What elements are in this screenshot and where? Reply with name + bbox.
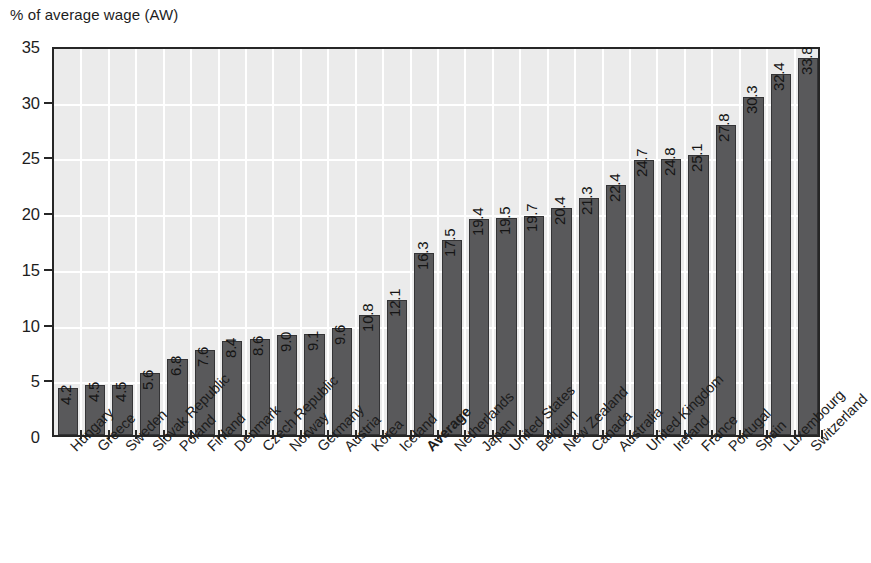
x-axis-tick-mark: [519, 430, 521, 439]
gridline-vertical: [272, 49, 274, 435]
x-axis-tick-mark: [382, 430, 384, 439]
bar-value-label: 21.3: [578, 186, 595, 214]
gridline-vertical: [80, 49, 82, 435]
bar[interactable]: [634, 160, 654, 435]
bar-value-label: 8.4: [222, 338, 239, 358]
bar-value-label: 25.1: [688, 144, 705, 172]
x-axis-tick-mark: [711, 430, 713, 439]
bar-value-label: 19.4: [469, 207, 486, 235]
gridline-vertical: [163, 49, 165, 435]
gridline-vertical: [300, 49, 302, 435]
x-axis-tick-mark: [245, 430, 247, 439]
bar[interactable]: [359, 315, 379, 435]
x-axis-tick-mark: [547, 430, 549, 439]
bar-value-label: 22.4: [606, 174, 623, 202]
y-axis-tick-label: 0: [0, 428, 40, 447]
y-axis-tick-mark: [44, 213, 52, 215]
y-axis-tick-mark: [44, 102, 52, 104]
plot-area: 4.24.54.55.66.87.68.48.69.09.19.610.812.…: [52, 47, 820, 437]
bar[interactable]: [716, 125, 736, 435]
gridline-vertical: [821, 49, 823, 435]
bar[interactable]: [798, 58, 818, 435]
y-axis-tick-label: 15: [0, 260, 40, 279]
gridline-vertical: [656, 49, 658, 435]
gridline-vertical: [547, 49, 549, 435]
bar-value-label: 19.5: [496, 206, 513, 234]
gridline-vertical: [355, 49, 357, 435]
gridline-vertical: [492, 49, 494, 435]
bar-value-label: 20.4: [551, 196, 568, 224]
bar-value-label: 32.4: [770, 63, 787, 91]
bar-value-label: 17.5: [441, 229, 458, 257]
gridline-vertical: [135, 49, 137, 435]
bar[interactable]: [743, 97, 763, 435]
bar[interactable]: [387, 300, 407, 435]
x-axis-tick-mark: [327, 430, 329, 439]
gridline-vertical: [519, 49, 521, 435]
bar[interactable]: [606, 185, 626, 435]
x-axis-tick-mark: [684, 430, 686, 439]
x-axis-tick-mark: [766, 430, 768, 439]
gridline-vertical: [739, 49, 741, 435]
bar-value-label: 12.1: [386, 289, 403, 317]
x-axis-tick-mark: [437, 430, 439, 439]
bar[interactable]: [579, 198, 599, 435]
y-axis-tick-label: 25: [0, 149, 40, 168]
gridline-vertical: [437, 49, 439, 435]
y-axis-tick-mark: [44, 269, 52, 271]
y-axis-tick-label: 10: [0, 316, 40, 335]
bar[interactable]: [414, 253, 434, 435]
bar[interactable]: [771, 74, 791, 435]
bar-value-label: 30.3: [743, 86, 760, 114]
x-axis-tick-mark: [272, 430, 274, 439]
x-axis-tick-mark: [163, 430, 165, 439]
gridline-vertical: [218, 49, 220, 435]
bar[interactable]: [442, 240, 462, 435]
x-axis-tick-mark: [739, 430, 741, 439]
x-axis-tick-mark: [492, 430, 494, 439]
gridline-vertical: [766, 49, 768, 435]
gridline-vertical: [382, 49, 384, 435]
x-axis-tick-mark: [190, 430, 192, 439]
y-axis-tick-label: 20: [0, 205, 40, 224]
gridline-vertical: [245, 49, 247, 435]
gridline-vertical: [327, 49, 329, 435]
bar[interactable]: [688, 155, 708, 435]
y-axis-tick-mark: [44, 157, 52, 159]
bar-value-label: 24.8: [661, 147, 678, 175]
gridline-vertical: [794, 49, 796, 435]
bar[interactable]: [524, 216, 544, 436]
bar-value-label: 4.5: [85, 382, 102, 402]
bar-value-label: 5.6: [139, 369, 156, 389]
x-axis-tick-mark: [574, 430, 576, 439]
gridline-vertical: [711, 49, 713, 435]
y-axis-tick-label: 30: [0, 93, 40, 112]
x-axis-tick-mark: [629, 430, 631, 439]
bar-value-label: 24.7: [633, 148, 650, 176]
bar-value-label: 27.8: [715, 114, 732, 142]
x-axis-tick-mark: [821, 430, 823, 439]
bar-value-label: 6.8: [167, 356, 184, 376]
bar-value-label: 16.3: [414, 242, 431, 270]
bar[interactable]: [661, 159, 681, 435]
bar-value-label: 9.6: [331, 325, 348, 345]
bar[interactable]: [496, 218, 516, 435]
bar-value-label: 8.6: [249, 336, 266, 356]
gridline-vertical: [574, 49, 576, 435]
x-axis-tick-mark: [656, 430, 658, 439]
gridline-vertical: [410, 49, 412, 435]
bar[interactable]: [469, 219, 489, 435]
bar-value-label: 19.7: [523, 204, 540, 232]
y-axis-tick-mark: [44, 380, 52, 382]
x-axis-tick-mark: [794, 430, 796, 439]
x-axis-tick-mark: [80, 430, 82, 439]
gridline-vertical: [629, 49, 631, 435]
bar-value-label: 7.6: [194, 347, 211, 367]
x-axis-tick-mark: [464, 430, 466, 439]
bar[interactable]: [551, 208, 571, 435]
y-axis-tick-label: 35: [0, 38, 40, 57]
x-axis-tick-mark: [602, 430, 604, 439]
x-axis-tick-mark: [135, 430, 137, 439]
bar-value-label: 9.0: [277, 331, 294, 351]
bar-value-label: 33.8: [798, 47, 815, 75]
